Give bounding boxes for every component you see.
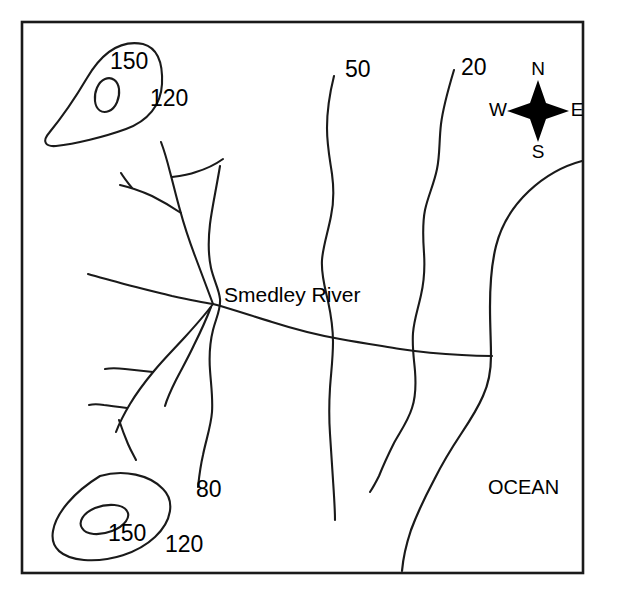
topographic-map-figure: N E S W 150 120 50 20 80 150 120 Smedley… xyxy=(0,0,617,596)
compass-label-west: W xyxy=(489,99,507,120)
ocean-label: OCEAN xyxy=(488,476,559,498)
river-main-channel xyxy=(213,304,492,356)
river-tributary-barb-southwest xyxy=(105,368,153,372)
river-tributary-barb-lower xyxy=(89,404,127,408)
river-name-label: Smedley River xyxy=(224,283,361,306)
contour-label-120-upper: 120 xyxy=(150,85,188,111)
river-tributary-mid xyxy=(165,307,211,406)
contour-label-150-lower: 150 xyxy=(108,520,146,546)
compass-star-icon xyxy=(507,80,569,142)
contour-line-80 xyxy=(198,166,220,487)
contour-label-120-lower: 120 xyxy=(165,531,203,557)
river-tributary-west xyxy=(88,274,213,304)
contour-120-lower-left xyxy=(53,473,171,560)
contour-label-50: 50 xyxy=(345,56,371,82)
contour-line-20 xyxy=(370,70,454,492)
compass-label-south: S xyxy=(532,141,545,162)
river-tributary-spur-south xyxy=(119,420,136,460)
river-tributary-upper-left xyxy=(120,185,181,213)
contour-label-150-upper: 150 xyxy=(110,48,148,74)
compass-label-north: N xyxy=(531,58,545,79)
river-tributary-upper-right xyxy=(172,159,223,177)
river-tributary-southwest xyxy=(116,304,213,432)
river-tributary-northwest-main xyxy=(161,142,213,304)
contour-150-upper-left xyxy=(95,78,119,112)
coastline xyxy=(402,161,582,571)
map-canvas: N E S W 150 120 50 20 80 150 120 Smedley… xyxy=(0,0,617,596)
compass-label-east: E xyxy=(571,99,584,120)
contour-label-80: 80 xyxy=(196,476,222,502)
contour-label-20: 20 xyxy=(461,54,487,80)
compass-rose: N E S W xyxy=(489,58,583,162)
